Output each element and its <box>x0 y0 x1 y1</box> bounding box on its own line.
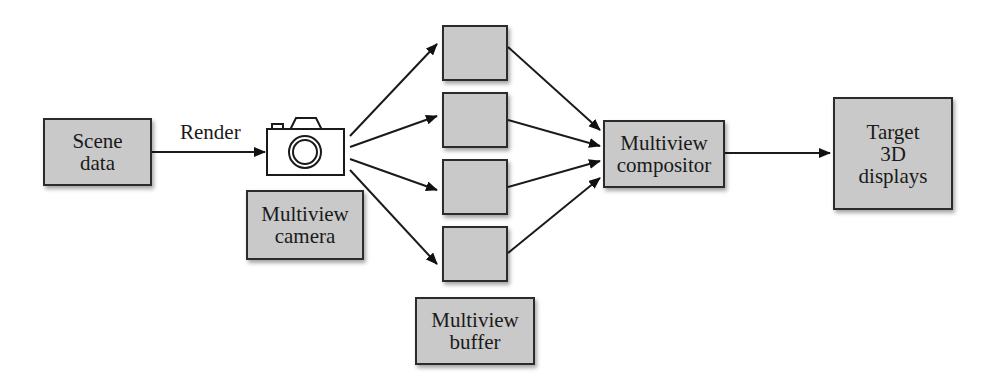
buffer-view-3 <box>442 159 508 215</box>
camera-icon <box>267 118 344 175</box>
buffer-view-4 <box>442 226 508 282</box>
buffer-view-1 <box>442 25 508 81</box>
scene-data-node: Scene data <box>43 118 152 186</box>
render-edge-label: Render <box>180 120 241 145</box>
multiview-camera-node: Multiview camera <box>246 190 364 260</box>
target-3d-displays-node: Target 3D displays <box>833 97 953 210</box>
buffer-view-2 <box>442 92 508 148</box>
multiview-compositor-node: Multiview compositor <box>603 120 725 188</box>
multiview-buffer-label: Multiview buffer <box>415 297 535 365</box>
